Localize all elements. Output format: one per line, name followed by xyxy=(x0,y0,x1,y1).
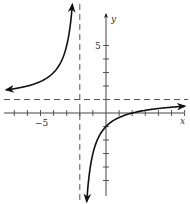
right-branch-curve xyxy=(87,106,185,201)
axes xyxy=(4,14,184,196)
curves xyxy=(6,5,184,202)
function-graph: −5 5 x y xyxy=(0,0,190,204)
x-tick-label-minus5: −5 xyxy=(35,118,49,128)
asymptotes xyxy=(4,4,188,200)
x-axis-label: x xyxy=(180,116,185,126)
left-branch-curve xyxy=(6,5,72,90)
y-tick-label-5: 5 xyxy=(95,41,101,51)
y-axis-label: y xyxy=(110,14,117,24)
